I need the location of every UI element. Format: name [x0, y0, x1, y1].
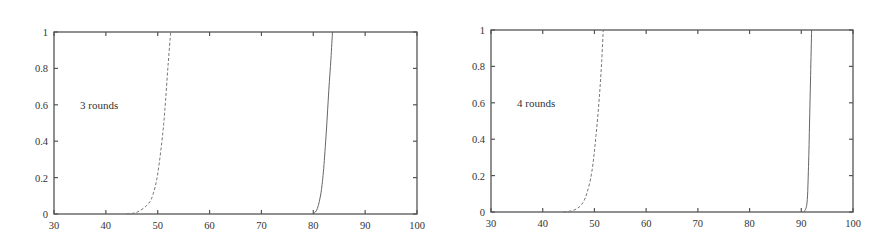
- y-tick-label: 0: [43, 209, 48, 220]
- y-tick-label: 1: [480, 25, 485, 36]
- x-tick-label: 60: [204, 220, 215, 231]
- plot-frame: [491, 30, 853, 212]
- y-tick-label: 0.8: [472, 61, 485, 72]
- x-tick-label: 80: [308, 220, 319, 231]
- x-tick-label: 30: [486, 218, 497, 229]
- chart-3-rounds: 3040506070809010000.20.40.60.813 rounds: [35, 27, 425, 231]
- y-tick-label: 0: [480, 207, 485, 218]
- y-tick-label: 0.2: [472, 171, 485, 182]
- x-tick-label: 40: [537, 218, 548, 229]
- y-tick-label: 1: [43, 27, 48, 38]
- x-tick-label: 70: [256, 220, 267, 231]
- rounds-annotation: 4 rounds: [517, 97, 555, 109]
- y-tick-label: 0.6: [35, 100, 48, 111]
- x-tick-label: 30: [49, 220, 60, 231]
- y-tick-label: 0.4: [472, 134, 486, 145]
- x-tick-label: 50: [589, 218, 600, 229]
- x-tick-label: 90: [796, 218, 807, 229]
- x-tick-label: 100: [409, 220, 425, 231]
- y-tick-label: 0.4: [35, 136, 49, 147]
- rounds-annotation: 3 rounds: [80, 99, 118, 111]
- x-tick-label: 70: [693, 218, 704, 229]
- x-tick-label: 40: [101, 220, 112, 231]
- plot-frame: [54, 32, 417, 214]
- x-tick-label: 80: [744, 218, 755, 229]
- x-tick-label: 60: [641, 218, 652, 229]
- x-tick-label: 90: [360, 220, 371, 231]
- y-tick-label: 0.6: [472, 98, 485, 109]
- y-tick-label: 0.8: [35, 63, 48, 74]
- x-tick-label: 100: [845, 218, 861, 229]
- dashed-curve: [563, 30, 603, 212]
- chart-4-rounds: 3040506070809010000.20.40.60.814 rounds: [472, 25, 861, 229]
- solid-curve: [804, 30, 812, 212]
- solid-curve: [313, 32, 332, 214]
- dashed-curve: [127, 32, 171, 214]
- x-tick-label: 50: [152, 220, 163, 231]
- y-tick-label: 0.2: [35, 173, 48, 184]
- figure: 3040506070809010000.20.40.60.813 rounds …: [0, 0, 893, 243]
